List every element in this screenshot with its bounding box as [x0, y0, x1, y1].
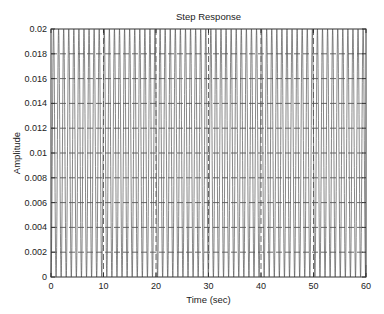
y-tick-label: 0.016: [24, 74, 47, 84]
y-tick-label: 0.014: [24, 98, 47, 108]
y-tick-label: 0.02: [29, 24, 47, 34]
y-tick-label: 0: [42, 272, 47, 282]
x-tick-label: 30: [203, 281, 213, 291]
y-axis-label: Amplitude: [11, 132, 22, 174]
x-tick-label: 50: [308, 281, 318, 291]
x-tick-label: 40: [256, 281, 266, 291]
step-response-chart: Step Response Time (sec) Amplitude 00.00…: [0, 0, 384, 314]
y-tick-label: 0.006: [24, 198, 47, 208]
x-tick-label: 10: [98, 281, 108, 291]
chart-title: Step Response: [176, 11, 241, 22]
y-tick-label: 0.002: [24, 247, 47, 257]
x-axis-label: Time (sec): [186, 294, 231, 305]
y-tick-label: 0.01: [29, 148, 47, 158]
y-tick-label: 0.012: [24, 123, 47, 133]
y-tick-label: 0.018: [24, 49, 47, 59]
y-tick-label: 0.004: [24, 222, 47, 232]
x-tick-label: 60: [361, 281, 371, 291]
x-tick-label: 20: [151, 281, 161, 291]
y-tick-label: 0.008: [24, 173, 47, 183]
x-tick-label: 0: [48, 281, 53, 291]
